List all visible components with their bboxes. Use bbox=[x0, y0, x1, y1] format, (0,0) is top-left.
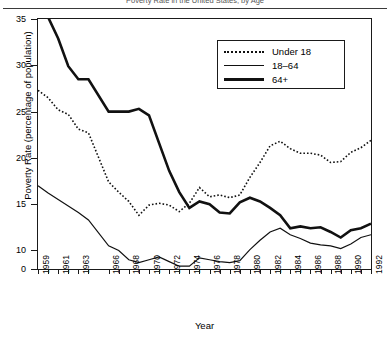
y-axis-tick bbox=[31, 250, 37, 251]
y-axis-label: 20 bbox=[0, 154, 26, 163]
legend-swatch-thick bbox=[224, 75, 264, 85]
x-axis-tick bbox=[159, 269, 160, 274]
y-axis-label: 0 bbox=[0, 265, 26, 274]
y-axis-tick bbox=[31, 19, 37, 20]
x-axis-tick bbox=[300, 269, 301, 274]
x-axis-tick bbox=[280, 269, 281, 274]
x-axis-tick bbox=[250, 269, 251, 274]
x-axis-tick bbox=[371, 269, 372, 274]
legend-label: 18–64 bbox=[272, 61, 298, 71]
x-axis-tick bbox=[139, 269, 140, 274]
x-axis-tick bbox=[48, 269, 49, 274]
x-axis-tick bbox=[240, 269, 241, 274]
x-axis-label: 1992 bbox=[375, 255, 384, 274]
x-axis-tick bbox=[230, 269, 231, 274]
y-axis-label: 10 bbox=[0, 246, 26, 255]
x-axis-tick bbox=[68, 269, 69, 274]
x-axis-tick bbox=[361, 269, 362, 274]
x-axis-tick bbox=[341, 269, 342, 274]
x-axis-title: Year bbox=[37, 320, 372, 331]
legend-label: Under 18 bbox=[272, 47, 311, 57]
x-axis-tick bbox=[38, 269, 39, 274]
x-axis-tick bbox=[189, 269, 190, 274]
y-axis-tick bbox=[31, 269, 37, 270]
x-axis-tick bbox=[119, 269, 120, 274]
x-axis-tick bbox=[199, 269, 200, 274]
y-axis-tick bbox=[31, 112, 37, 113]
x-axis-tick bbox=[78, 269, 79, 274]
x-axis-tick bbox=[169, 269, 170, 274]
legend-label: 64+ bbox=[272, 75, 288, 85]
x-axis-tick bbox=[351, 269, 352, 274]
legend-item-under-18: Under 18 bbox=[224, 45, 344, 59]
x-axis-tick bbox=[58, 269, 59, 274]
x-axis-tick bbox=[321, 269, 322, 274]
series-line-under-18 bbox=[38, 90, 371, 215]
y-axis-label: 25 bbox=[0, 108, 26, 117]
x-axis-tick bbox=[260, 269, 261, 274]
y-axis-tick bbox=[31, 204, 37, 205]
x-axis-tick bbox=[129, 269, 130, 274]
x-axis-tick bbox=[179, 269, 180, 274]
legend: Under 18 18–64 64+ bbox=[217, 40, 345, 89]
x-axis-tick bbox=[109, 269, 110, 274]
x-axis-tick bbox=[88, 269, 89, 274]
legend-item-18-64: 18–64 bbox=[224, 59, 344, 73]
legend-swatch-dotted bbox=[224, 47, 264, 57]
x-axis-tick bbox=[149, 269, 150, 274]
legend-swatch-thin bbox=[224, 61, 264, 71]
x-axis-tick bbox=[220, 269, 221, 274]
x-axis-tick bbox=[270, 269, 271, 274]
legend-item-64-plus: 64+ bbox=[224, 73, 344, 87]
y-axis-label: 15 bbox=[0, 200, 26, 209]
x-axis-tick bbox=[310, 269, 311, 274]
x-axis-tick bbox=[331, 269, 332, 274]
y-axis-tick bbox=[31, 65, 37, 66]
y-axis-label: 35 bbox=[0, 15, 26, 24]
x-axis-tick bbox=[290, 269, 291, 274]
x-axis-tick bbox=[210, 269, 211, 274]
title-divider bbox=[3, 8, 387, 9]
chart-title-text: Poverty Rate in the United States, by Ag… bbox=[0, 0, 390, 5]
y-axis-label: 30 bbox=[0, 61, 26, 70]
y-axis-tick bbox=[31, 158, 37, 159]
poverty-rate-line-chart: Poverty Rate in the United States, by Ag… bbox=[0, 0, 390, 340]
